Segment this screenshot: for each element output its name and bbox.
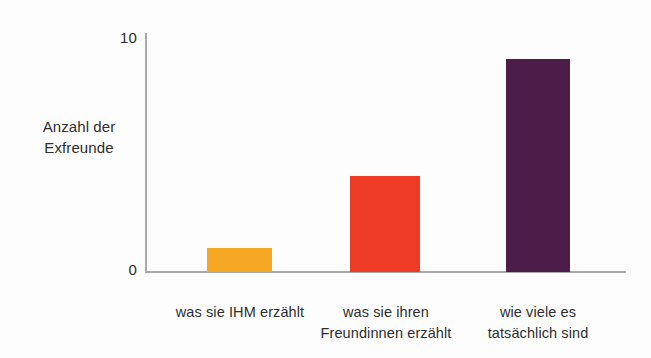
x-axis-category-label-1-line-2: Freundinnen erzählt — [306, 323, 466, 344]
bar-was-sie-ihren-freundinnen-erzaehlt — [350, 176, 420, 272]
y-axis-tick-10: 10 — [95, 29, 137, 46]
plot-area — [147, 33, 626, 272]
x-axis-category-label-2-line-1: wie viele es — [458, 302, 618, 323]
x-axis-category-label-2-line-2: tatsächlich sind — [458, 323, 618, 344]
x-axis-category-label-0-line-1: was sie IHM erzählt — [160, 302, 320, 323]
x-axis-category-label-1: was sie ihren Freundinnen erzählt — [306, 302, 466, 344]
y-axis-title-line-2: Exfreunde — [20, 137, 138, 158]
x-axis-category-label-2: wie viele es tatsächlich sind — [458, 302, 618, 344]
bar-was-sie-ihm-erzaehlt — [207, 248, 272, 272]
y-axis-tick-0: 0 — [95, 261, 137, 278]
y-axis-title: Anzahl der Exfreunde — [20, 116, 138, 158]
bar-wie-viele-es-tatsaechlich-sind — [506, 59, 570, 272]
x-axis-category-label-1-line-1: was sie ihren — [306, 302, 466, 323]
bar-chart: 10 0 Anzahl der Exfreunde was sie IHM er… — [0, 0, 651, 358]
y-axis-title-line-1: Anzahl der — [20, 116, 138, 137]
x-axis-category-label-0: was sie IHM erzählt — [160, 302, 320, 323]
